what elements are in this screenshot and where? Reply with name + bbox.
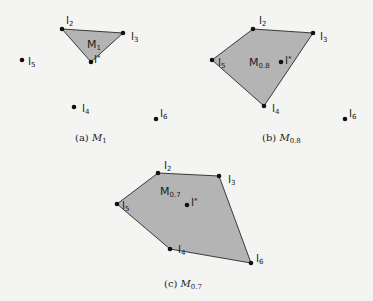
point-marker bbox=[311, 31, 316, 36]
point-marker bbox=[115, 202, 120, 207]
point-marker bbox=[279, 60, 284, 65]
point-marker bbox=[121, 31, 126, 36]
point-label: l3 bbox=[320, 30, 328, 44]
point-marker bbox=[168, 247, 173, 252]
point-label: l6 bbox=[160, 107, 168, 121]
point-marker bbox=[217, 174, 222, 179]
point-marker bbox=[72, 105, 77, 110]
point-label: l2 bbox=[259, 14, 267, 28]
point-label: l4 bbox=[82, 102, 90, 116]
point-label: l6 bbox=[349, 107, 357, 121]
point-marker bbox=[60, 27, 65, 32]
point-marker bbox=[262, 104, 267, 109]
panel-caption: (c) M0.7 bbox=[164, 278, 202, 291]
point-marker bbox=[210, 58, 215, 63]
diagram-canvas: M1l2l3l*l5l4l6(a) M1M0.8l2l3l5l4l*l6(b) … bbox=[0, 0, 373, 301]
point-marker bbox=[89, 60, 94, 65]
point-label: l3 bbox=[228, 173, 236, 187]
point-marker bbox=[154, 117, 159, 122]
panel-c: M0.7l2l3l5l4l6l*(c) M0.7 bbox=[115, 159, 264, 291]
point-marker bbox=[156, 171, 161, 176]
point-label: l2 bbox=[164, 159, 172, 173]
panel-a: M1l2l3l*l5l4l6(a) M1 bbox=[20, 14, 168, 145]
point-label: l6 bbox=[256, 252, 264, 266]
point-label: l3 bbox=[131, 30, 139, 44]
panel-b: M0.8l2l3l5l4l*l6(b) M0.8 bbox=[210, 14, 357, 145]
panel-caption: (b) M0.8 bbox=[262, 132, 301, 145]
point-marker bbox=[249, 261, 254, 266]
point-marker bbox=[20, 58, 25, 63]
point-marker bbox=[343, 117, 348, 122]
point-label: l* bbox=[94, 53, 101, 66]
point-label: l4 bbox=[272, 102, 280, 116]
point-marker bbox=[251, 27, 256, 32]
point-marker bbox=[185, 203, 190, 208]
point-label: l2 bbox=[66, 14, 74, 28]
panel-caption: (a) M1 bbox=[75, 132, 107, 145]
point-label: l5 bbox=[28, 55, 36, 69]
